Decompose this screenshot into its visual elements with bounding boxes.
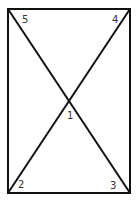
label-1: 1 [67, 111, 73, 121]
label-3: 3 [110, 181, 116, 191]
diagram-canvas [0, 0, 138, 200]
label-2: 2 [18, 180, 24, 190]
label-5: 5 [22, 15, 28, 25]
label-4: 4 [112, 15, 118, 25]
